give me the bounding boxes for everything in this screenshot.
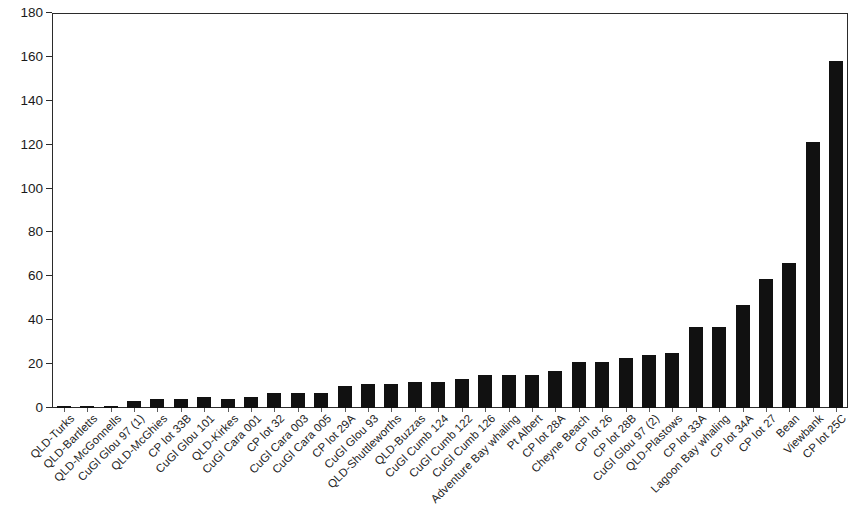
y-tick-label: 180 <box>20 3 43 23</box>
bar <box>338 386 352 408</box>
y-tick-label: 120 <box>20 135 43 155</box>
bar <box>525 375 539 408</box>
bar <box>548 371 562 408</box>
y-tick-label: 80 <box>28 222 43 242</box>
bar <box>174 399 188 408</box>
bar <box>712 327 726 408</box>
bar <box>267 393 281 408</box>
bar <box>759 279 773 408</box>
bar <box>431 382 445 408</box>
bar <box>384 384 398 408</box>
x-axis-labels: QLD-TurksQLD-BartlettsQLD-McGonnellsCuGl… <box>0 412 856 520</box>
bar <box>408 382 422 408</box>
bar <box>829 61 843 408</box>
y-tick-label: 20 <box>28 354 43 374</box>
bar <box>127 401 141 408</box>
bar <box>782 263 796 408</box>
bar <box>197 397 211 408</box>
y-tick-label: 60 <box>28 266 43 286</box>
bar <box>736 305 750 408</box>
y-tick-label: 160 <box>20 47 43 67</box>
bar <box>806 142 820 408</box>
bars-layer <box>52 13 848 408</box>
bar <box>455 379 469 408</box>
bar <box>642 355 656 408</box>
bar <box>150 399 164 408</box>
y-tick-label: 100 <box>20 179 43 199</box>
y-tick-label: 40 <box>28 310 43 330</box>
bar <box>361 384 375 408</box>
bar <box>689 327 703 408</box>
bar <box>244 397 258 408</box>
bar <box>595 362 609 408</box>
bar <box>291 393 305 408</box>
bar <box>572 362 586 408</box>
bar <box>221 399 235 408</box>
bar <box>619 358 633 408</box>
bar-chart: 020406080100120140160180 QLD-TurksQLD-Ba… <box>0 0 856 520</box>
bar <box>502 375 516 408</box>
bar <box>314 393 328 408</box>
bar <box>665 353 679 408</box>
y-tick-label: 140 <box>20 91 43 111</box>
y-axis: 020406080100120140160180 <box>0 0 52 420</box>
bar <box>478 375 492 408</box>
